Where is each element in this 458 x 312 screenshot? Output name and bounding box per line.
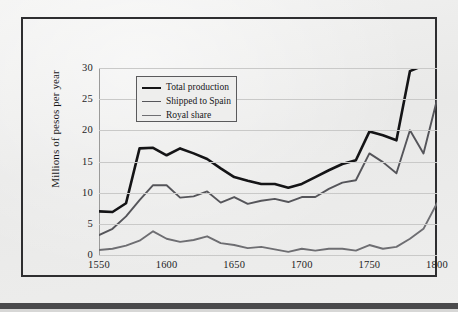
gridline-y-15 <box>99 162 437 163</box>
gridline-y-0 <box>99 255 437 256</box>
x-tick-1750: 1750 <box>358 260 380 271</box>
x-tick-1650: 1650 <box>223 260 245 271</box>
series-line-royal-share <box>99 203 437 252</box>
y-tick-20: 20 <box>82 125 93 136</box>
gridline-y-10 <box>99 193 437 194</box>
chart-legend: Total productionShipped to SpainRoyal sh… <box>136 76 237 122</box>
legend-swatch-icon <box>142 115 161 116</box>
gridline-y-5 <box>99 224 437 225</box>
x-tick-1800: 1800 <box>426 260 448 271</box>
y-tick-15: 15 <box>82 157 93 168</box>
scanned-page: 051015202530 Millions of pesos per year … <box>0 0 458 312</box>
y-axis-title: Millions of pesos per year <box>49 49 61 209</box>
legend-item-shipped-to-spain: Shipped to Spain <box>142 95 231 108</box>
x-axis-tick-labels: 155016001650170017501800 <box>99 260 437 274</box>
x-tick-1700: 1700 <box>291 260 313 271</box>
x-tick-1600: 1600 <box>156 260 178 271</box>
legend-item-total-production: Total production <box>142 81 231 94</box>
legend-item-royal-share: Royal share <box>142 109 231 122</box>
gridline-y-20 <box>99 130 437 131</box>
y-tick-5: 5 <box>88 219 93 230</box>
legend-label: Royal share <box>166 111 211 121</box>
y-axis-tick-labels: 051015202530 <box>71 68 93 255</box>
legend-label: Total production <box>166 83 229 93</box>
figure-frame: 051015202530 Millions of pesos per year … <box>21 17 437 277</box>
y-tick-25: 25 <box>82 94 93 105</box>
y-tick-10: 10 <box>82 188 93 199</box>
y-tick-30: 30 <box>82 63 93 74</box>
legend-label: Shipped to Spain <box>166 97 231 107</box>
legend-swatch-icon <box>142 101 161 102</box>
x-tick-1550: 1550 <box>88 260 110 271</box>
legend-swatch-icon <box>142 87 161 89</box>
gridline-y-30 <box>99 68 437 69</box>
